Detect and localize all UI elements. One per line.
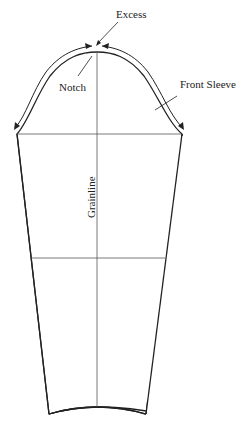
right-cap-arrow: [102, 46, 183, 128]
front-sleeve-label: Front Sleeve: [180, 78, 236, 90]
notch-pointer: [78, 56, 92, 76]
notch-label: Notch: [59, 81, 86, 93]
front-sleeve-diagram: Excess Notch Front Sleeve Grainline: [0, 0, 248, 426]
excess-pointer: [97, 22, 118, 44]
grainline-label: Grainline: [85, 176, 97, 218]
front-sleeve-pointer: [155, 96, 177, 110]
excess-label: Excess: [116, 8, 147, 20]
